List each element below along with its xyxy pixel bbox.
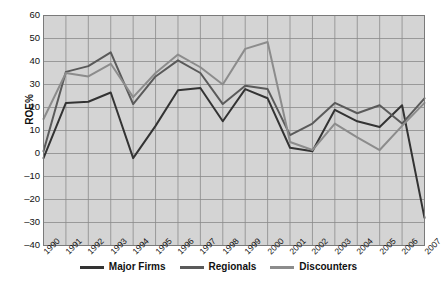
legend-label: Regionals <box>209 262 257 272</box>
legend-swatch-icon <box>180 266 204 269</box>
y-tick-label: 50 <box>0 33 40 43</box>
legend-label: Discounters <box>299 262 357 272</box>
y-tick-label: 60 <box>0 10 40 20</box>
chart-legend: Major FirmsRegionalsDiscounters <box>0 262 437 272</box>
y-tick-label: 0 <box>0 148 40 158</box>
y-tick-label: 40 <box>0 56 40 66</box>
legend-label: Major Firms <box>109 262 166 272</box>
y-axis-title: ROE% <box>24 80 35 140</box>
y-tick-label: –20 <box>0 194 40 204</box>
y-tick-label: –40 <box>0 240 40 250</box>
legend-item: Major Firms <box>80 262 166 272</box>
legend-item: Regionals <box>180 262 257 272</box>
legend-swatch-icon <box>270 266 294 269</box>
legend-item: Discounters <box>270 262 357 272</box>
legend-swatch-icon <box>80 266 104 269</box>
y-tick-label: –10 <box>0 171 40 181</box>
y-axis-ticks: 6050403020100–10–20–30–40 <box>0 0 40 283</box>
y-tick-label: –30 <box>0 217 40 227</box>
